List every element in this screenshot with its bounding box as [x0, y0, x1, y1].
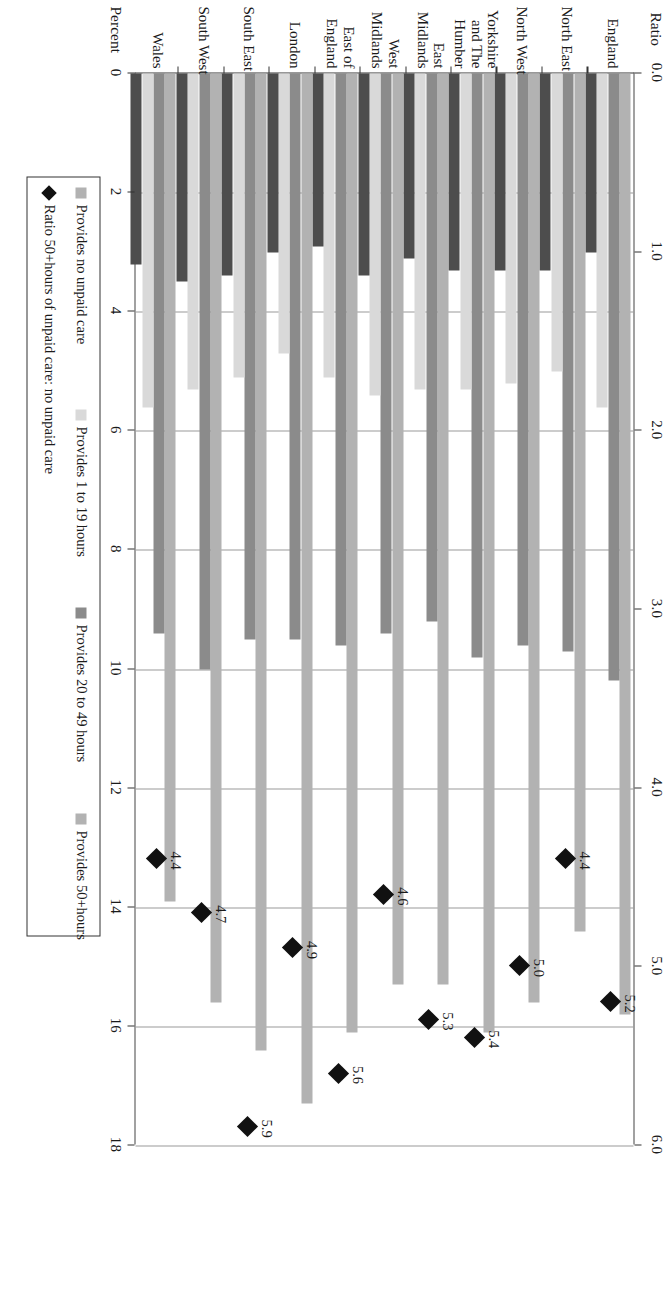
x2-tick-label: 2.0: [647, 420, 664, 439]
gridline: [135, 1145, 633, 1146]
bar-3: [539, 73, 550, 270]
legend-item-label: Provides 20 to 49 hours: [72, 624, 89, 762]
x-axis-tick: [127, 906, 134, 907]
x2-axis-tick: [634, 608, 641, 609]
ratio-value-label: 5.4: [484, 1030, 501, 1048]
category-label-line: East of: [339, 6, 356, 68]
category-label-line: London: [285, 6, 302, 68]
bar-0: [255, 73, 266, 1050]
bar-2: [414, 73, 425, 389]
x2-tick-label: 5.0: [647, 956, 664, 975]
bar-1: [608, 73, 619, 680]
bar-3: [221, 73, 232, 275]
category-label: EastMidlands: [413, 6, 447, 68]
category-label-line: North West: [512, 6, 529, 68]
category-tick: [177, 66, 178, 73]
category-label-line: and The: [467, 6, 484, 68]
x-axis-title-percent: Percent: [106, 6, 124, 52]
x-tick-label: 10: [106, 660, 123, 675]
bar-2: [596, 73, 607, 407]
category-label-line: West: [384, 6, 401, 68]
legend-item-label: Provides 1 to 19 hours: [72, 426, 89, 557]
x-axis-tick: [127, 310, 134, 311]
bar-1: [199, 73, 210, 669]
category-label-line: Humber: [450, 6, 467, 68]
x-axis-tick: [127, 191, 134, 192]
bar-2: [233, 73, 244, 377]
category-label-line: North East: [558, 6, 575, 68]
category-label: England: [603, 6, 620, 68]
bar-0: [437, 73, 448, 984]
ratio-value-label: 5.6: [348, 1065, 365, 1083]
x2-tick-label: 0.0: [647, 62, 664, 81]
x-axis-tick: [127, 668, 134, 669]
category-tick: [586, 66, 587, 73]
bar-1: [244, 73, 255, 639]
plot-area: [134, 72, 634, 1144]
category-label-line: Wales: [148, 6, 165, 68]
bar-0: [346, 73, 357, 1032]
x-axis-tick: [127, 548, 134, 549]
bar-1: [517, 73, 528, 645]
x-tick-label: 14: [106, 898, 123, 913]
x-axis-tick: [127, 787, 134, 788]
bar-3: [312, 73, 323, 246]
x-tick-label: 6: [106, 425, 123, 433]
bar-1: [426, 73, 437, 621]
x2-tick-label: 6.0: [647, 1134, 664, 1153]
bar-1: [335, 73, 346, 645]
bar-0: [164, 73, 175, 901]
category-label: WestMidlands: [367, 6, 401, 68]
x-tick-label: 8: [106, 545, 123, 553]
category-label: North West: [512, 6, 529, 68]
x2-axis-tick: [634, 1144, 641, 1145]
category-tick: [541, 66, 542, 73]
bar-3: [176, 73, 187, 281]
gridline: [135, 1026, 633, 1027]
bar-0: [392, 73, 403, 984]
bar-2: [323, 73, 334, 377]
category-label-line: Midlands: [413, 6, 430, 68]
bar-0: [619, 73, 630, 1014]
bar-0: [210, 73, 221, 1002]
rotated-figure-wrapper: Percent Ratio Provides no unpaid carePro…: [0, 0, 672, 1297]
category-label-line: South West: [194, 6, 211, 68]
bar-3: [358, 73, 369, 275]
x-tick-label: 16: [106, 1017, 123, 1032]
legend-square-icon: [75, 813, 86, 824]
x2-tick-label: 1.0: [647, 241, 664, 260]
ratio-value-label: 5.3: [438, 1012, 455, 1030]
category-label-line: Yorkshire: [484, 6, 501, 68]
category-tick: [405, 66, 406, 73]
bar-2: [142, 73, 153, 407]
category-label-line: East: [430, 6, 447, 68]
x2-axis-tick: [634, 787, 641, 788]
x-tick-label: 18: [106, 1136, 123, 1151]
bar-3: [403, 73, 414, 258]
legend-square-icon: [75, 409, 86, 420]
bar-3: [448, 73, 459, 270]
x-tick-label: 2: [106, 187, 123, 195]
figure: Percent Ratio Provides no unpaid carePro…: [0, 0, 672, 1297]
legend-item-label: Provides 50+hours: [72, 830, 89, 939]
legend-item-label: Provides no unpaid care: [72, 204, 89, 344]
bar-0: [528, 73, 539, 1002]
x-tick-label: 0: [106, 68, 123, 76]
x-tick-label: 12: [106, 779, 123, 794]
bar-1: [153, 73, 164, 633]
x2-axis-title-ratio: Ratio: [646, 12, 664, 46]
bar-3: [267, 73, 278, 252]
ratio-value-label: 4.6: [393, 887, 410, 905]
ratio-value-label: 4.7: [211, 905, 228, 923]
x2-tick-label: 3.0: [647, 598, 664, 617]
x-tick-label: 4: [106, 306, 123, 314]
x-axis-tick: [127, 1025, 134, 1026]
category-label-line: England: [603, 6, 620, 68]
bar-1: [380, 73, 391, 633]
category-label: Wales: [148, 6, 165, 68]
chart-legend: Provides no unpaid careProvides 1 to 19 …: [26, 176, 100, 936]
bar-2: [369, 73, 380, 395]
category-label: London: [285, 6, 302, 68]
bar-2: [187, 73, 198, 389]
x2-axis-tick: [634, 965, 641, 966]
